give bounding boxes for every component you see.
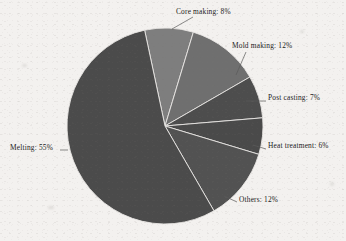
- pie-svg: [0, 0, 346, 241]
- slice-label-core-making: Core making: 8%: [176, 8, 231, 16]
- slice-label-mold-making: Mold making: 12%: [232, 42, 292, 50]
- pie-slices-group: [67, 28, 263, 224]
- slice-label-post-casting: Post casting: 7%: [268, 94, 320, 102]
- leader-line-core-making: [172, 17, 193, 29]
- slice-label-others: Others: 12%: [239, 196, 278, 204]
- slice-label-melting: Melting: 55%: [10, 144, 53, 152]
- slice-label-heat-treatment: Heat treatment: 6%: [268, 142, 329, 150]
- chart-plot-area: [0, 0, 346, 241]
- pie-chart-figure: Core making: 8% Mold making: 12% Post ca…: [0, 0, 346, 241]
